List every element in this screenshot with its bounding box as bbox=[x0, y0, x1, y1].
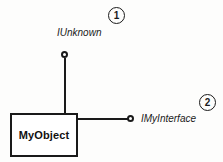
callout-marker-1: 1 bbox=[108, 7, 125, 24]
diagram-canvas: IUnknown IMyInterface MyObject 1 2 bbox=[0, 0, 223, 162]
interface-label-imyinterface: IMyInterface bbox=[141, 113, 196, 124]
object-box-myobject: MyObject bbox=[10, 113, 78, 157]
lollipop-icon-imyinterface bbox=[127, 115, 134, 122]
connector-line-imyinterface bbox=[77, 118, 129, 120]
callout-marker-1-number: 1 bbox=[114, 11, 120, 21]
interface-label-iunknown: IUnknown bbox=[57, 27, 101, 38]
connector-line-iunknown bbox=[64, 58, 66, 115]
callout-marker-2: 2 bbox=[199, 94, 216, 111]
lollipop-icon-iunknown bbox=[61, 51, 68, 58]
object-box-label: MyObject bbox=[19, 129, 69, 141]
callout-marker-2-number: 2 bbox=[205, 98, 211, 108]
